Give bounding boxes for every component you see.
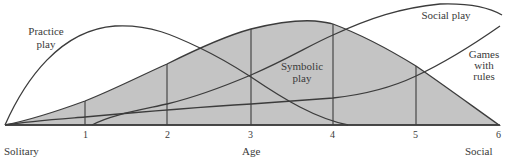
x-axis-title: Age — [242, 145, 260, 157]
tick-label-1: 1 — [83, 129, 88, 140]
games-with-rules-label-3: rules — [473, 70, 494, 82]
practice-play-label: Practice — [28, 25, 64, 37]
axis-right-label: Social — [465, 145, 493, 157]
symbolic-play-label-2: play — [293, 72, 312, 84]
social-play-label: Social play — [421, 9, 471, 21]
tick-label-5: 5 — [413, 129, 418, 140]
tick-label-6: 6 — [496, 129, 501, 140]
axis-left-label: Solitary — [4, 145, 39, 157]
symbolic-play-label: Symbolic — [281, 60, 323, 72]
play-development-chart: 1 2 3 4 5 6 Solitary Age Social Practice… — [0, 0, 505, 162]
tick-label-4: 4 — [330, 129, 335, 140]
practice-play-label-2: play — [37, 38, 56, 50]
tick-label-3: 3 — [248, 129, 253, 140]
tick-label-2: 2 — [165, 129, 170, 140]
